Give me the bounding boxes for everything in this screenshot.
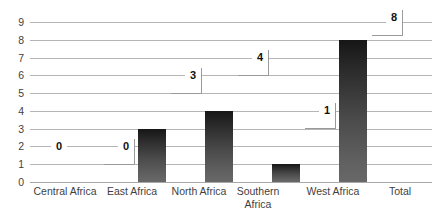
x-label-north-africa: North Africa — [160, 185, 238, 198]
leader-line-north-africa-horizontal — [171, 93, 202, 94]
x-label-southern-africa: Southern Africa — [230, 185, 286, 211]
gridline-9 — [30, 22, 432, 23]
x-axis-labels: Central Africa East Africa North Africa … — [30, 185, 432, 218]
leader-line-east-africa-horizontal — [104, 164, 135, 165]
data-label-central-africa: 0 — [51, 139, 67, 154]
gridline-7 — [30, 58, 432, 59]
y-tick-0: 0 — [0, 177, 24, 187]
y-tick-1: 1 — [0, 159, 24, 169]
bar-north-africa[interactable] — [138, 129, 166, 182]
leader-line-north-africa-vertical — [201, 68, 202, 93]
data-label-west-africa: 1 — [319, 103, 335, 118]
leader-line-total-horizontal — [372, 35, 403, 36]
axis-baseline — [30, 182, 432, 183]
data-label-north-africa: 3 — [185, 68, 201, 83]
y-tick-5: 5 — [0, 88, 24, 98]
y-tick-8: 8 — [0, 35, 24, 45]
y-tick-6: 6 — [0, 70, 24, 80]
bar-total[interactable] — [339, 40, 367, 182]
plot-area: 0 0 3 4 1 8 9 8 7 6 5 4 3 2 1 0 — [30, 22, 432, 182]
y-tick-3: 3 — [0, 124, 24, 134]
bar-west-africa[interactable] — [272, 164, 300, 182]
leader-line-west-africa-horizontal — [305, 128, 336, 129]
leader-line-east-africa-vertical — [134, 139, 135, 164]
y-tick-9: 9 — [0, 17, 24, 27]
bar-southern-africa[interactable] — [205, 111, 233, 182]
bar-chart: 0 0 3 4 1 8 9 8 7 6 5 4 3 2 1 0 Central — [0, 0, 443, 218]
leader-line-total-vertical — [402, 10, 403, 35]
leader-line-southern-africa-vertical — [268, 50, 269, 75]
gridline-6 — [30, 75, 432, 76]
x-label-total: Total — [361, 185, 439, 198]
leader-line-southern-africa-horizontal — [238, 75, 269, 76]
data-label-east-africa: 0 — [118, 139, 134, 154]
data-label-southern-africa: 4 — [252, 50, 268, 65]
gridline-5 — [30, 93, 432, 94]
leader-line-west-africa-vertical — [335, 103, 336, 128]
y-tick-4: 4 — [0, 106, 24, 116]
y-tick-2: 2 — [0, 141, 24, 151]
data-label-total: 8 — [386, 10, 402, 25]
gridline-8 — [30, 40, 432, 41]
y-tick-7: 7 — [0, 53, 24, 63]
